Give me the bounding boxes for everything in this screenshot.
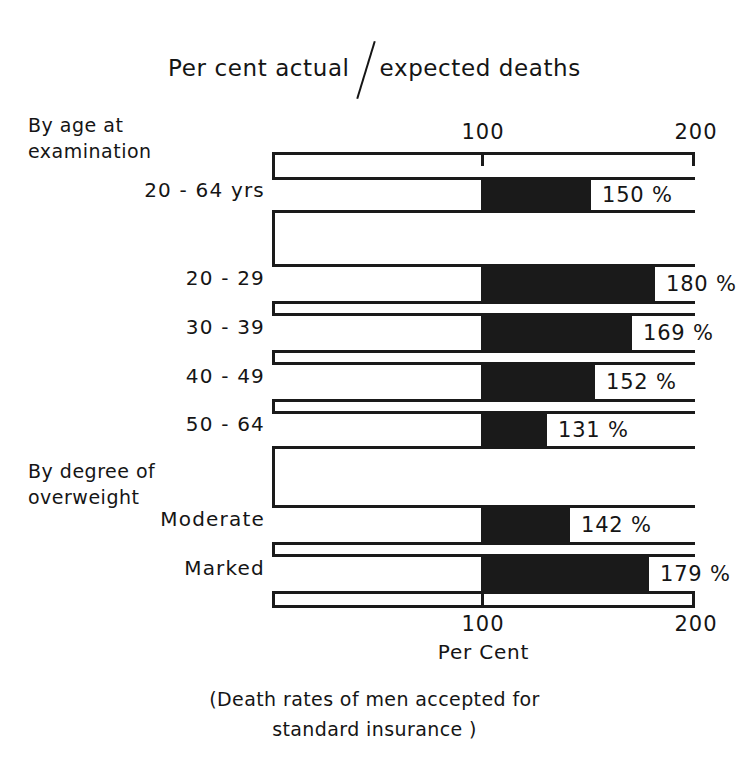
bar-fill-30-39 [481,316,632,350]
category-axis-labels: 20 - 64 yrs 20 - 29 30 - 39 40 - 49 50 -… [0,0,265,757]
category-label-40-49: 40 - 49 [186,364,265,388]
bottom-axis-tick-label-100: 100 [461,612,504,636]
bar-fill-marked [481,557,649,591]
bar-fill-50-64 [481,414,547,446]
bar-fill-moderate [481,508,570,542]
top-axis-tick-100 [481,155,484,166]
bar-value-label-50-64: 131 % [558,418,629,442]
bar-fill-40-49 [481,365,595,399]
category-label-20-29: 20 - 29 [186,266,265,290]
top-axis-tick-label-100: 100 [461,120,504,144]
bar-value-label-moderate: 142 % [581,513,652,537]
bar-value-label-20-29: 180 % [666,272,737,296]
plot-area: 100 200 100 200 150 % 180 % 169 % 152 % [272,152,695,608]
bar-fill-20-64-yrs [481,180,591,210]
category-label-20-64-yrs: 20 - 64 yrs [144,178,265,202]
category-label-50-64: 50 - 64 [186,412,265,436]
bar-value-label-20-64-yrs: 150 % [602,183,673,207]
chart-note: (Death rates of men accepted for standar… [0,684,749,744]
bottom-axis-tick-label-200: 200 [674,612,717,636]
bar-value-label-marked: 179 % [660,562,731,586]
x-axis-title: Per Cent [272,640,695,664]
bottom-axis-tick-200 [692,594,695,605]
category-label-marked: Marked [184,556,265,580]
slash-divider-icon [350,40,380,100]
bar-value-label-30-39: 169 % [643,321,714,345]
bottom-value-axis-line [272,605,695,608]
bar-frame-20-29 [272,264,695,304]
bar-value-label-40-49: 152 % [606,370,677,394]
bar-frame-marked [272,554,695,594]
bar-frame-50-64 [272,411,695,449]
category-label-moderate: Moderate [160,507,265,531]
top-axis-tick-200 [692,155,695,166]
bar-fill-20-29 [481,267,655,301]
top-axis-tick-label-200: 200 [674,120,717,144]
bar-frame-30-39 [272,313,695,353]
bottom-axis-tick-100 [481,594,484,605]
chart-title-after-slash: expected deaths [380,55,581,81]
chart-note-line-2: standard insurance ) [0,714,749,744]
chart-note-line-1: (Death rates of men accepted for [0,684,749,714]
category-label-30-39: 30 - 39 [186,315,265,339]
